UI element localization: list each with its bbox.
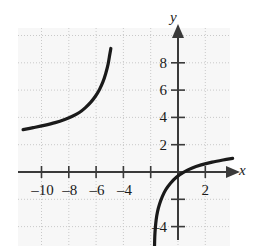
coordinate-plane: –10–8–6–428642–4 x y (0, 0, 255, 246)
y-tick-label: 6 (160, 82, 168, 98)
y-axis-label: y (168, 9, 177, 25)
x-tick-label: –6 (89, 182, 106, 198)
y-tick-label: 8 (160, 55, 168, 71)
y-tick-label: 2 (160, 137, 168, 153)
x-tick-label: –4 (116, 182, 133, 198)
graph-figure: –10–8–6–428642–4 x y (0, 0, 255, 246)
x-tick-label: –8 (61, 182, 77, 198)
y-tick-label: 4 (160, 109, 168, 125)
x-tick-label: –10 (30, 182, 54, 198)
plot-background (18, 28, 230, 246)
x-axis-label: x (238, 162, 246, 178)
x-tick-label: 2 (202, 182, 210, 198)
